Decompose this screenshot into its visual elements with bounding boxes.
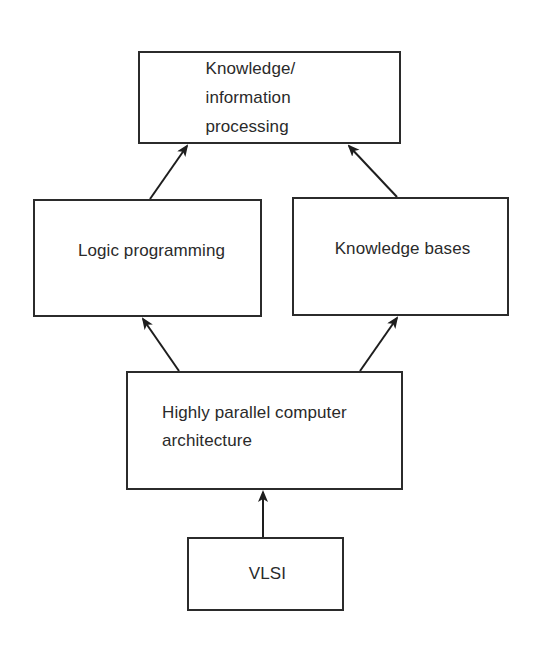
arrow-kb-to-knowledge-processing [349, 146, 397, 197]
node-highly-parallel-computer-architecture: Highly parallel computer architecture [126, 371, 403, 490]
node-logic-programming: Logic programming [33, 199, 262, 317]
node-label: Knowledge/ information processing [206, 54, 326, 141]
arrow-logic-to-knowledge-processing [150, 146, 187, 199]
node-label-line: Logic programming [78, 237, 225, 265]
node-label: Logic programming [78, 237, 225, 265]
node-label-line: Highly parallel computer [162, 399, 392, 427]
node-knowledge-bases: Knowledge bases [292, 197, 509, 316]
node-label-line: processing [206, 112, 326, 141]
node-vlsi: VLSI [187, 537, 344, 611]
node-label: Highly parallel computer architecture [162, 399, 392, 455]
node-label-line: information [206, 83, 326, 112]
node-label: Knowledge bases [335, 235, 471, 263]
node-label: VLSI [249, 560, 286, 588]
node-label-line: VLSI [249, 560, 286, 588]
arrow-architecture-to-logic [143, 319, 179, 371]
node-label-line: Knowledge bases [335, 235, 471, 263]
diagram-canvas: Knowledge/ information processing Logic … [0, 0, 534, 647]
node-label-line: Knowledge/ [206, 54, 326, 83]
node-knowledge-information-processing: Knowledge/ information processing [138, 51, 401, 144]
node-label-line: architecture [162, 427, 392, 455]
arrow-architecture-to-kb [360, 318, 397, 371]
